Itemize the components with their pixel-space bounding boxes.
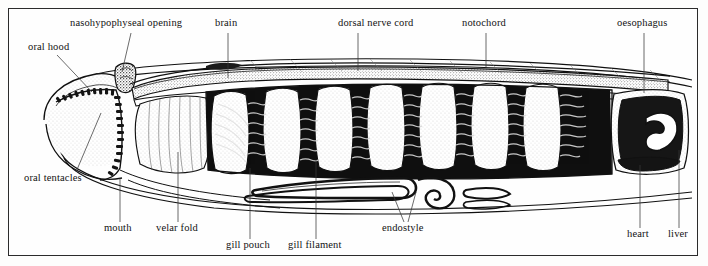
label-endostyle: endostyle (382, 223, 424, 234)
label-velar-fold: velar fold (156, 223, 198, 234)
leader-endostyle-a (392, 192, 404, 222)
label-mouth: mouth (104, 223, 132, 234)
label-gill-filament: gill filament (288, 240, 342, 251)
label-notochord: notochord (462, 18, 506, 29)
label-dorsal-nerve-cord: dorsal nerve cord (338, 18, 413, 29)
label-gill-pouch: gill pouch (226, 240, 270, 251)
pharynx-gill-basket (206, 83, 612, 179)
endostyle-shape (245, 178, 510, 209)
figure-container: nasohypophyseal opening brain dorsal ner… (0, 0, 708, 266)
label-brain: brain (215, 18, 237, 29)
label-liver: liver (668, 229, 688, 240)
label-oral-tentacles: oral tentacles (24, 173, 82, 184)
label-oral-hood: oral hood (28, 42, 69, 53)
label-nasohypophyseal-opening: nasohypophyseal opening (70, 18, 182, 29)
velar-fold-shape (136, 96, 211, 173)
label-heart: heart (627, 229, 649, 240)
label-oesophagus: oesophagus (617, 18, 668, 29)
